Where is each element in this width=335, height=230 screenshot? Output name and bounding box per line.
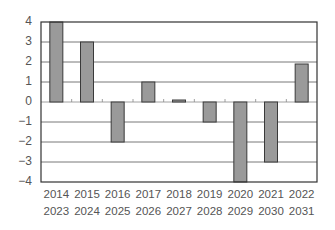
bar-2014: [50, 22, 63, 102]
x-tick-label: 20152024: [70, 186, 104, 220]
bar-2019: [203, 102, 216, 122]
x-tick-label: 20202029: [223, 186, 257, 220]
y-tick-label: −2: [12, 134, 32, 148]
bar-2020: [234, 102, 247, 182]
bar-2015: [81, 42, 94, 102]
x-tick-label: 20212030: [254, 186, 288, 220]
bar-2016: [111, 102, 124, 142]
y-tick-label: 2: [12, 54, 32, 68]
x-tick-label: 20142023: [39, 186, 73, 220]
y-tick-label: 3: [12, 34, 32, 48]
x-tick-label: 20192028: [193, 186, 227, 220]
bar-2022: [295, 64, 308, 102]
x-tick-label: 20182027: [162, 186, 196, 220]
x-tick-label: 20162025: [101, 186, 135, 220]
y-tick-label: 0: [12, 94, 32, 108]
bar-2018: [173, 100, 186, 102]
y-tick-label: −4: [12, 174, 32, 188]
x-tick-label: 20222031: [285, 186, 319, 220]
bar-chart: 43210−1−2−3−4 20142023201520242016202520…: [0, 0, 335, 230]
x-tick-label: 20172026: [131, 186, 165, 220]
y-tick-label: 4: [12, 14, 32, 28]
y-tick-label: −3: [12, 154, 32, 168]
y-tick-label: −1: [12, 114, 32, 128]
y-tick-label: 1: [12, 74, 32, 88]
bar-2021: [265, 102, 278, 162]
bar-2017: [142, 82, 155, 102]
